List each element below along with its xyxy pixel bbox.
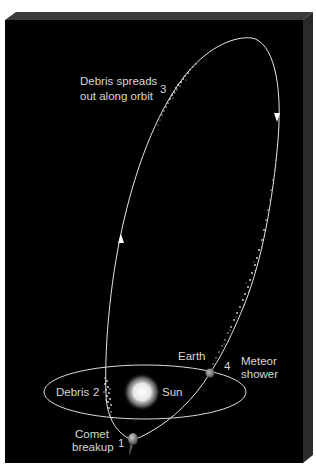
diagram-canvas: [0, 0, 316, 471]
stage-4-number: 4: [224, 360, 230, 373]
stage-4-label-line2: shower: [241, 368, 278, 381]
stage-2-label: Debris: [56, 386, 89, 399]
diagram: Debris spreads out along orbit 3 Earth 4…: [0, 0, 316, 471]
stage-3-label-line1: Debris spreads: [80, 75, 157, 88]
box-side-face: [303, 12, 313, 463]
stage-1-label-line1: Comet: [75, 428, 109, 441]
sun-label: Sun: [162, 386, 182, 399]
stage-3-label-line2: out along orbit: [80, 90, 153, 103]
stage-4-label-line1: Meteor: [241, 355, 277, 368]
earth-icon: [206, 369, 215, 378]
stage-1-label-line2: breakup: [72, 441, 114, 454]
comet-icon: [128, 433, 138, 445]
stage-3-number: 3: [160, 83, 166, 96]
stage-2-number: 2: [93, 386, 99, 399]
sun-icon: [123, 373, 161, 411]
box-top-face: [5, 12, 313, 20]
earth-label: Earth: [178, 350, 206, 363]
stage-1-number: 1: [118, 437, 124, 450]
